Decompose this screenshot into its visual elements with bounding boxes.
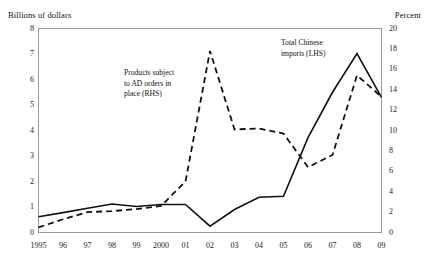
series-line-total-chinese-imports <box>39 53 382 226</box>
annotation-rhs-line3: place (RHS) <box>124 89 174 100</box>
annotation-rhs-series: Products subject to AD orders in place (… <box>124 68 174 100</box>
plot-area <box>0 0 427 264</box>
annotation-lhs-line1: Total Chinese <box>281 38 326 49</box>
annotation-rhs-line1: Products subject <box>124 68 174 79</box>
plot-frame <box>39 29 382 233</box>
chart-container: Billions of dollars Percent 876543210 20… <box>0 0 427 264</box>
series-line-products-subject-to-ad-orders <box>39 51 382 227</box>
annotation-rhs-line2: to AD orders in <box>124 79 174 90</box>
annotation-lhs-line2: imports (LHS) <box>281 49 326 60</box>
annotation-lhs-series: Total Chinese imports (LHS) <box>281 38 326 59</box>
